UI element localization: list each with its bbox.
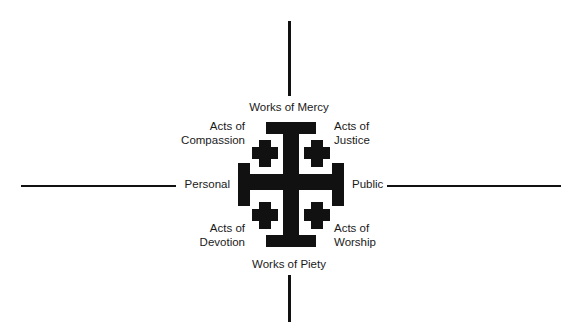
diagram-canvas: Works of Mercy Works of Piety Personal P…	[0, 0, 581, 323]
axis-line-vertical-bottom	[288, 275, 291, 322]
label-personal: Personal	[130, 178, 230, 192]
label-works-of-piety: Works of Piety	[229, 258, 349, 272]
jerusalem-cross-icon	[228, 112, 354, 257]
axis-line-vertical-top	[288, 21, 291, 96]
label-public: Public	[352, 178, 452, 192]
